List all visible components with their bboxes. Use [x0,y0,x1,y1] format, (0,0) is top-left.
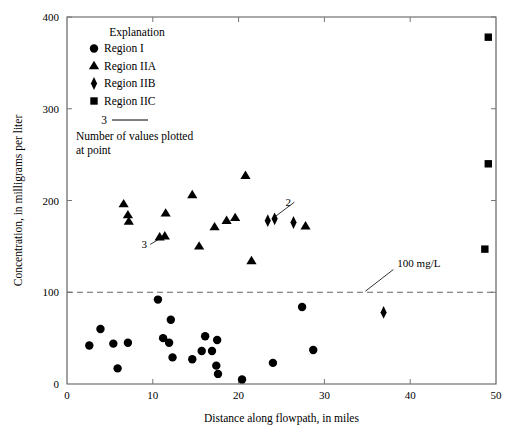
legend-marker-square [90,97,97,104]
legend-item-label: Region IIB [104,77,156,90]
data-point-circle [214,370,222,378]
data-point-circle [165,339,173,347]
y-tick-label: 100 [43,286,60,298]
legend-marker-diamond [91,77,97,90]
x-tick-label: 50 [491,389,503,401]
legend-item-label: Region IIA [104,60,157,73]
data-point-triangle [300,221,310,229]
legend-marker-triangle [89,61,99,69]
data-point-circle [168,353,176,361]
data-point-diamond [265,214,271,227]
data-point-triangle [230,213,240,221]
data-point-circle [201,332,209,340]
count-annotation-label: 3 [141,238,147,250]
count-annotation-leader [275,202,295,217]
x-tick-label: 20 [233,389,245,401]
data-point-circle [113,364,121,372]
plot-frame [67,17,496,384]
figure-container: 010203040500100200300400Distance along f… [0,0,522,428]
count-annotation-label: 2 [286,196,292,208]
data-point-circle [213,336,221,344]
data-point-circle [85,341,93,349]
data-point-diamond [290,216,296,229]
data-point-triangle [187,190,197,198]
data-point-circle [212,361,220,369]
data-point-diamond [381,306,387,319]
data-point-circle [109,339,117,347]
legend-item-label: Region IIC [104,95,156,108]
data-point-circle [154,295,162,303]
data-point-triangle [240,171,250,179]
y-tick-label: 200 [43,195,60,207]
x-tick-label: 0 [64,389,70,401]
data-point-circle [298,303,306,311]
data-point-circle [238,375,246,383]
data-point-circle [309,346,317,354]
x-tick-label: 10 [147,389,159,401]
scatter-plot: 010203040500100200300400Distance along f… [0,0,522,428]
data-point-triangle [119,199,129,207]
data-point-circle [198,347,206,355]
legend-item-label: Region I [104,42,144,55]
data-point-circle [188,355,196,363]
data-point-triangle [246,256,256,264]
y-tick-label: 400 [43,11,60,23]
x-axis-title: Distance along flowpath, in miles [204,412,359,425]
legend-note-line2: at point [76,144,112,157]
data-point-square [485,160,492,167]
y-tick-label: 300 [43,103,60,115]
data-point-circle [269,359,277,367]
data-point-square [481,245,488,252]
data-point-square [485,33,492,40]
legend-marker-circle [90,44,98,52]
data-point-triangle [161,208,171,216]
data-point-diamond [272,212,278,225]
legend-title: Explanation [109,26,165,39]
data-point-triangle [194,241,204,249]
data-point-triangle [123,210,133,218]
x-tick-label: 40 [405,389,417,401]
legend-count-example: 3 [101,114,107,126]
data-point-circle [124,339,132,347]
y-axis-title: Concentration, in milligrams per liter [12,115,25,287]
y-tick-label: 0 [54,378,60,390]
data-point-triangle [209,222,219,230]
threshold-label: 100 mg/L [397,257,440,269]
data-point-circle [208,347,216,355]
data-point-triangle [221,215,231,223]
x-tick-label: 30 [319,389,331,401]
data-point-circle [96,325,104,333]
legend-note-line1: Number of values plotted [76,130,193,143]
threshold-leader [365,270,393,292]
data-point-circle [167,316,175,324]
